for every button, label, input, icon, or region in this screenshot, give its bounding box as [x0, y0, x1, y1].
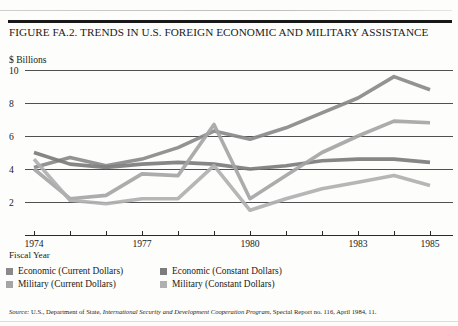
x-tick-1976 — [106, 231, 107, 235]
x-tick-label-1985: 1985 — [420, 238, 439, 249]
x-tick-1975 — [70, 231, 71, 235]
legend-item-label: Economic (Constant Dollars) — [172, 266, 282, 277]
legend-swatch-icon — [160, 268, 167, 275]
legend-swatch-icon — [6, 268, 13, 275]
legend-item-label: Economic (Current Dollars) — [18, 266, 123, 277]
source-title-italic: International Security and Development C… — [103, 308, 271, 315]
legend-column-right: Economic (Constant Dollars)Military (Con… — [160, 266, 282, 292]
x-tick-label-1977: 1977 — [132, 238, 151, 249]
legend-item-3[interactable]: Military (Constant Dollars) — [160, 279, 282, 290]
legend-item-1[interactable]: Military (Current Dollars) — [6, 279, 123, 290]
x-tick-1979 — [214, 231, 215, 235]
figure-page: FIGURE FA.2. TRENDS IN U.S. FOREIGN ECON… — [0, 0, 458, 326]
legend-item-2[interactable]: Economic (Constant Dollars) — [160, 266, 282, 277]
x-tick-1985 — [430, 231, 431, 235]
x-tick-label-1983: 1983 — [348, 238, 367, 249]
source-label: Source: — [9, 308, 29, 315]
legend-swatch-icon — [6, 281, 13, 288]
x-tick-1983 — [358, 231, 359, 235]
x-tick-1977 — [142, 231, 143, 235]
x-tick-1980 — [250, 231, 251, 235]
x-tick-1982 — [322, 231, 323, 235]
bottom-hairline-rule — [0, 321, 458, 322]
series-line-economic-current-dollars — [34, 77, 430, 168]
x-tick-label-1980: 1980 — [240, 238, 259, 249]
source-text-1: U.S., Department of State, — [29, 308, 102, 315]
x-axis-line — [25, 235, 453, 236]
legend-swatch-icon — [160, 281, 167, 288]
legend-column-left: Economic (Current Dollars)Military (Curr… — [6, 266, 123, 292]
x-axis-title: Fiscal Year — [9, 250, 50, 260]
legend-item-label: Military (Current Dollars) — [18, 279, 116, 290]
source-note: Source: U.S., Department of State, Inter… — [9, 308, 455, 315]
source-text-2: Special Report no. 116, April 1984, 11. — [271, 308, 376, 315]
x-tick-1974 — [34, 231, 35, 235]
legend-item-0[interactable]: Economic (Current Dollars) — [6, 266, 123, 277]
legend-item-label: Military (Constant Dollars) — [172, 279, 275, 290]
x-tick-1984 — [394, 231, 395, 235]
x-tick-1978 — [178, 231, 179, 235]
x-tick-label-1974: 1974 — [24, 238, 43, 249]
x-tick-1981 — [286, 231, 287, 235]
